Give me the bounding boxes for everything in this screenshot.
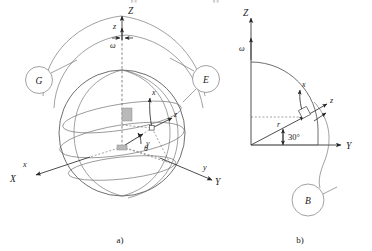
radius-label-r: r	[277, 120, 281, 129]
axis-label-Z-b: Z	[243, 8, 249, 18]
local-marker-leader-2	[183, 89, 196, 102]
local-marker-label: E	[202, 75, 209, 85]
figure-container: G E Z z ω X x Y y x y z θ a)	[0, 0, 372, 251]
axis-label-Y-upper: Y	[215, 177, 222, 187]
omega-label-panel-b: ω	[239, 44, 245, 53]
right-angle-marker-b[interactable]	[298, 106, 310, 118]
panel-a-caption: a)	[117, 235, 124, 245]
section-marker-label: B	[305, 196, 311, 206]
angle-label-30deg: 30°	[288, 132, 300, 142]
outer-orbit-arc-left	[43, 16, 205, 96]
axis-label-Z-upper: Z	[128, 6, 134, 16]
axis-label-x-b: x	[301, 80, 306, 89]
axis-label-z-b: z	[329, 96, 334, 105]
meridian-quarter-arc	[251, 62, 318, 145]
greenwich-marker-leader	[51, 60, 77, 73]
axis-label-y-global-small: y	[202, 163, 207, 172]
right-angle-marker-center	[117, 145, 127, 150]
axis-label-X-upper: X	[9, 174, 17, 184]
panel-a: G E Z z ω X x Y y x y z θ a)	[9, 6, 222, 245]
technical-diagram: G E Z z ω X x Y y x y z θ a)	[0, 0, 372, 251]
panel-b-caption: b)	[296, 235, 304, 245]
right-angle-marker-upper	[122, 108, 132, 121]
omega-label-panel-a: ω	[110, 41, 116, 50]
theta-label: θ	[144, 144, 148, 153]
axis-label-x-local: x	[22, 160, 27, 169]
axis-label-x-tangent: x	[151, 88, 156, 97]
theta-angle-arc	[138, 133, 141, 144]
panel-b: B Z ω Y x z r 30° b)	[239, 8, 353, 245]
x-axis-local-line	[150, 98, 152, 128]
section-marker-leader	[323, 187, 337, 194]
greenwich-marker-label: G	[36, 76, 43, 86]
cropped-top-labels	[131, 0, 219, 3]
axis-label-z-radial: z	[173, 110, 178, 119]
local-marker-leader	[170, 58, 194, 71]
lower-latitude-ellipse	[67, 151, 177, 184]
surface-point-marker	[150, 126, 155, 131]
axis-label-z-polar: z	[112, 22, 117, 31]
axis-label-Y-b: Y	[346, 141, 353, 151]
